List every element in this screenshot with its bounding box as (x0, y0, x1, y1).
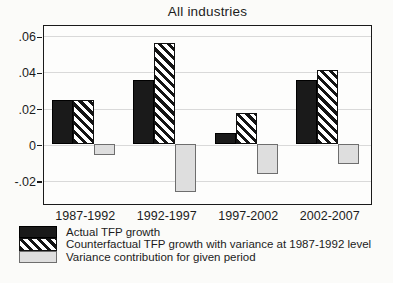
x-tick-label-1992-1997: 1992-1997 (122, 209, 212, 223)
bar-counterfactual-tfp-growth-1987-1992 (73, 100, 94, 143)
bar-counterfactual-tfp-growth-1997-2002 (236, 113, 257, 144)
bar-variance-contribution-1987-1992 (94, 144, 115, 155)
legend-row-counterfactual-tfp-growth: Counterfactual TFP growth with variance … (19, 238, 371, 250)
x-tick-label-2002-2007: 2002-2007 (285, 209, 375, 223)
bar-variance-contribution-2002-2007 (338, 144, 359, 164)
chart-figure: All industries Actual TFP growth Counter… (0, 0, 393, 283)
y-tick-label-.02: .02 (0, 103, 36, 117)
legend-label-variance-contribution: Variance contribution for given period (66, 251, 256, 263)
legend: Actual TFP growth Counterfactual TFP gro… (19, 226, 371, 263)
y-tick-mark-.06 (37, 37, 42, 39)
chart-title: All industries (43, 4, 372, 19)
plot-area (43, 25, 372, 205)
y-tick-mark-.02 (37, 109, 42, 111)
legend-swatch-counterfactual-tfp-growth (19, 238, 57, 250)
bar-variance-contribution-1992-1997 (175, 144, 196, 193)
x-tick-label-1997-2002: 1997-2002 (203, 209, 293, 223)
bar-actual-tfp-growth-1992-1997 (133, 80, 154, 143)
bar-variance-contribution-1997-2002 (257, 144, 278, 175)
bar-actual-tfp-growth-1997-2002 (215, 133, 236, 144)
y-tick-label-.06: .06 (0, 30, 36, 44)
gridline--.02 (44, 181, 371, 182)
legend-swatch-actual-tfp-growth (19, 226, 57, 238)
y-tick-mark-0 (37, 145, 42, 147)
legend-label-actual-tfp-growth: Actual TFP growth (66, 226, 160, 238)
bar-counterfactual-tfp-growth-2002-2007 (317, 70, 338, 144)
legend-swatch-variance-contribution (19, 251, 57, 263)
x-tick-label-1987-1992: 1987-1992 (40, 209, 130, 223)
legend-label-counterfactual-tfp-growth: Counterfactual TFP growth with variance … (66, 238, 371, 250)
y-tick-label-.04: .04 (0, 66, 36, 80)
legend-row-variance-contribution: Variance contribution for given period (19, 251, 371, 263)
legend-row-actual-tfp-growth: Actual TFP growth (19, 226, 371, 238)
y-tick-label-0: 0 (0, 139, 36, 153)
y-tick-mark--.02 (37, 181, 42, 183)
y-tick-label--.02: -.02 (0, 175, 36, 189)
bar-actual-tfp-growth-2002-2007 (296, 80, 317, 143)
y-tick-mark-.04 (37, 73, 42, 75)
bar-actual-tfp-growth-1987-1992 (52, 100, 73, 143)
gridline-.06 (44, 36, 371, 37)
bar-counterfactual-tfp-growth-1992-1997 (154, 43, 175, 144)
